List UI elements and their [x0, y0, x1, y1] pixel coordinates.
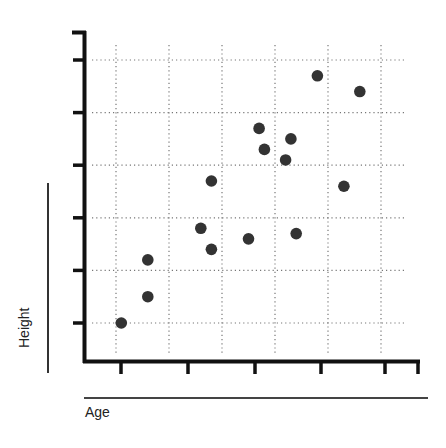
data-point [253, 123, 265, 135]
scatter-plot [0, 0, 446, 448]
x-axis-label-rule [84, 397, 428, 399]
data-point [259, 144, 271, 156]
data-point [280, 154, 292, 166]
data-point [354, 86, 366, 98]
data-point [285, 133, 297, 145]
data-point [338, 180, 350, 192]
data-point [142, 291, 154, 303]
data-point [243, 233, 255, 245]
data-point [195, 223, 207, 235]
y-axis-label: Height [16, 308, 32, 348]
data-point [116, 317, 128, 329]
data-point [206, 244, 218, 256]
data-point [312, 70, 324, 82]
y-axis-label-rule [47, 183, 49, 373]
data-point [206, 175, 218, 187]
data-point [290, 228, 302, 240]
data-point [142, 254, 154, 266]
x-axis-label: Age [85, 404, 110, 420]
